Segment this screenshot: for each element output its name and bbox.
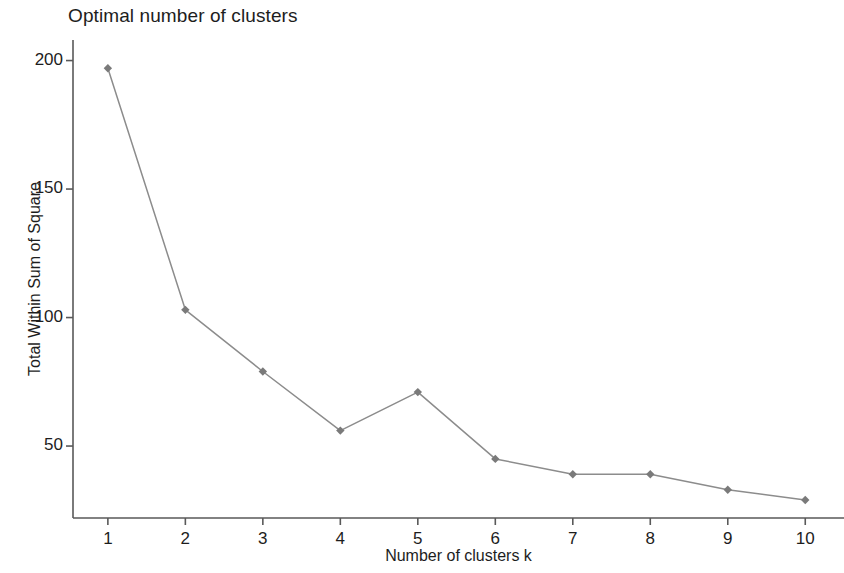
- x-axis-tick-label: 8: [630, 529, 670, 549]
- x-axis-tick-label: 3: [243, 529, 283, 549]
- x-axis-tick-label: 2: [165, 529, 205, 549]
- x-axis-tick-labels: 12345678910: [0, 0, 844, 573]
- x-axis-tick-label: 7: [553, 529, 593, 549]
- chart-screenshot: Optimal number of clusters Total Within …: [0, 0, 844, 573]
- x-axis-tick-label: 9: [708, 529, 748, 549]
- x-axis-tick-label: 4: [320, 529, 360, 549]
- x-axis-tick-label: 1: [88, 529, 128, 549]
- x-axis-tick-label: 6: [475, 529, 515, 549]
- x-axis-tick-label: 10: [785, 529, 825, 549]
- x-axis-tick-label: 5: [398, 529, 438, 549]
